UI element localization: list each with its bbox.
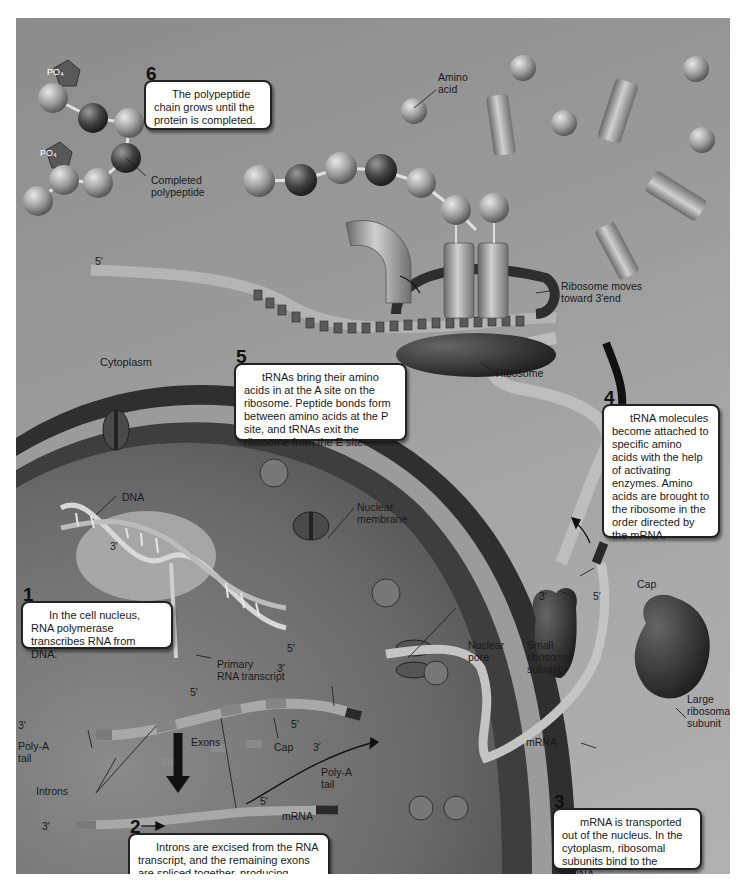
small-subunit-label: Small ribosomal subunit: [527, 639, 573, 675]
large-subunit-label: Large ribosomal subunit: [687, 693, 730, 729]
step-5-callout: 5 tRNAs bring their amino acids in at th…: [234, 363, 407, 441]
cap-left-label: Cap: [274, 741, 293, 753]
step-6-callout: 6 The polypeptide chain grows until the …: [144, 80, 272, 130]
nuclear-pore-label: Nuclear pore: [468, 639, 504, 663]
step-6-number: 6: [144, 65, 159, 83]
mrna-left-label: mRNA: [282, 810, 313, 822]
five-prime-top-label: 5′: [95, 255, 103, 267]
step-3-number: 3: [552, 793, 567, 811]
three-prime-mrna-label: 3′: [42, 820, 50, 832]
po4-label-top: PO₄: [47, 66, 64, 78]
poly-a-tail-pore-label: Poly-A tail: [321, 766, 352, 790]
exons-label: Exons: [191, 736, 220, 748]
three-prime-pore-label: 3′: [313, 741, 321, 753]
five-prime-cap-left-label: 5′: [291, 718, 299, 730]
introns-label: Introns: [36, 785, 68, 797]
growing-polypeptide: [243, 152, 509, 230]
step-5-number: 5: [234, 348, 249, 366]
step-4-text: tRNA molecules become attached to specif…: [612, 412, 710, 542]
nuclear-membrane-label: Nuclear membrane: [357, 501, 407, 525]
three-prime-transcript-label: 3′: [18, 719, 26, 731]
step-1-callout: 1 In the cell nucleus, RNA polymerase tr…: [21, 601, 173, 649]
ribosome-moves-label: Ribosome moves toward 3′end: [561, 280, 642, 304]
five-prime-cyto-label: 5′: [593, 590, 601, 602]
step-2-callout: 2 Introns are excised from the RNA trans…: [128, 833, 330, 874]
primary-rna-transcript-label: Primary RNA transcript: [217, 658, 285, 682]
po4-label-bottom: PO₄: [40, 147, 57, 159]
five-prime-transcript-label: 5′: [190, 686, 198, 698]
mrna-right-label: mRNA: [526, 736, 557, 748]
completed-polypeptide-label: Completed polypeptide: [151, 174, 205, 198]
diagram-frame: PO₄ PO₄ Completed polypeptide Amino acid…: [16, 18, 730, 874]
step-1-number: 1: [21, 586, 36, 604]
three-prime-cyto-label: 3′: [539, 590, 547, 602]
completed-polypeptide: [23, 60, 144, 216]
step-2-number: 2: [128, 818, 143, 836]
poly-a-tail-left-label: Poly-A tail: [18, 740, 49, 764]
step-3-text: mRNA is transported out of the nucleus. …: [562, 816, 692, 874]
step-4-number: 4: [602, 389, 617, 407]
five-prime-mrna-label: 5′: [260, 795, 268, 807]
three-prime-dna-label: 3′: [110, 540, 118, 552]
dna-label: DNA: [122, 491, 144, 503]
ribosome-label: Ribosome: [496, 367, 543, 379]
step-3-callout: 3 mRNA is transported out of the nucleus…: [552, 808, 702, 870]
step-6-text: The polypeptide chain grows until the pr…: [154, 88, 262, 127]
step-1-text: In the cell nucleus, RNA polymerase tran…: [31, 609, 163, 661]
amino-acid-label: Amino acid: [438, 71, 468, 95]
step-2-text: Introns are excised from the RNA transcr…: [138, 841, 320, 874]
cytoplasm-label: Cytoplasm: [100, 356, 152, 368]
step-4-callout: 4 tRNA molecules become attached to spec…: [602, 404, 720, 538]
trna-bound: [346, 220, 508, 318]
step-5-text: tRNAs bring their amino acids in at the …: [244, 371, 397, 449]
cap-right-label: Cap: [637, 578, 656, 590]
five-prime-dna-right-label: 5′: [287, 642, 295, 654]
